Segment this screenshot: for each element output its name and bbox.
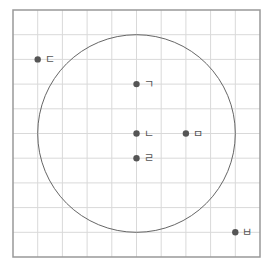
grid-circle-diagram: ㄷㄱㄴㅁㄹㅂ: [0, 0, 269, 273]
point-label: ㄷ: [45, 53, 55, 66]
point-label: ㅁ: [193, 128, 203, 141]
point-label: ㄹ: [144, 152, 154, 165]
point-dot: [133, 81, 139, 87]
point-dot: [133, 155, 139, 161]
point-dot: [133, 130, 139, 136]
point-label: ㅂ: [242, 226, 252, 239]
point-dot: [232, 229, 238, 235]
point-label: ㄴ: [144, 128, 154, 141]
point-label: ㄱ: [144, 78, 154, 91]
point-dot: [35, 56, 41, 62]
points-layer: ㄷㄱㄴㅁㄹㅂ: [35, 53, 253, 239]
point-dot: [183, 130, 189, 136]
